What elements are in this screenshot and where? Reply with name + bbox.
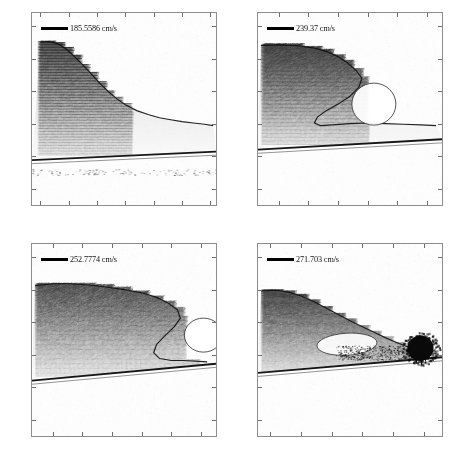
figure-container: 151050-5-10-100-95-90-85-80-75-70185.558… [0,0,452,463]
legend-label-0: 185.5586 cm/s [70,24,117,33]
xtick-mark-2-0 [53,432,54,436]
xtick-mark-top-1-4 [397,13,398,17]
velocity-field-canvas-3 [258,244,442,436]
xtick-mark-top-3-4 [393,244,394,248]
ytick-mark-right-0-1 [212,59,216,60]
ytick-mark-right-1-5 [438,189,442,190]
xtick-mark-top-0-1 [69,13,70,17]
xtick-mark-2-5 [201,432,202,436]
plot-axes-1: 151050-5-10-55-50-45-40-35-30239.37 cm/s [257,12,443,206]
xtick-mark-0-1 [69,201,70,205]
xtick-mark-1-2 [338,201,339,205]
ytick-mark-right-1-0 [438,26,442,27]
ytick-mark-0-2 [32,91,36,92]
ytick-mark-right-2-2 [212,322,216,323]
xtick-mark-3-3 [362,432,363,436]
xtick-mark-top-2-0 [53,244,54,248]
ytick-mark-2-5 [32,420,36,421]
xtick-mark-top-1-5 [427,13,428,17]
ytick-mark-right-0-5 [212,189,216,190]
ytick-mark-right-3-0 [438,257,442,258]
xtick-mark-top-3-2 [332,244,333,248]
ytick-mark-right-3-4 [438,387,442,388]
xtick-mark-2-1 [82,432,83,436]
ytick-mark-right-0-3 [212,124,216,125]
ytick-mark-right-1-3 [438,124,442,125]
xtick-mark-0-5 [182,201,183,205]
subplot-panel-0: 151050-5-10-100-95-90-85-80-75-70185.558… [0,0,226,232]
xtick-mark-3-1 [301,432,302,436]
xtick-mark-top-3-3 [362,244,363,248]
xtick-mark-3-2 [332,432,333,436]
ytick-mark-right-3-1 [438,290,442,291]
ytick-mark-1-2 [258,91,262,92]
xtick-mark-top-1-2 [338,13,339,17]
xtick-mark-top-2-3 [142,244,143,248]
xtick-mark-0-4 [154,201,155,205]
xtick-mark-top-2-5 [201,244,202,248]
ytick-mark-right-1-2 [438,91,442,92]
ytick-mark-right-3-5 [438,420,442,421]
xtick-mark-top-1-1 [308,13,309,17]
xtick-mark-top-3-1 [301,244,302,248]
ytick-mark-3-2 [258,322,262,323]
ytick-mark-right-2-5 [212,420,216,421]
ytick-mark-right-2-1 [212,290,216,291]
ytick-mark-2-0 [32,257,36,258]
velocity-field-canvas-2 [32,244,216,436]
xtick-mark-2-4 [171,432,172,436]
xtick-mark-0-2 [97,201,98,205]
xtick-mark-top-0-3 [125,13,126,17]
xtick-mark-3-0 [270,432,271,436]
legend-1: 239.37 cm/s [267,24,335,33]
xtick-mark-1-5 [427,201,428,205]
xtick-mark-top-3-5 [424,244,425,248]
legend-scale-bar-3 [267,258,294,260]
xtick-mark-top-3-0 [270,244,271,248]
xtick-mark-top-0-5 [182,13,183,17]
ytick-mark-2-3 [32,355,36,356]
ytick-mark-right-2-0 [212,257,216,258]
xtick-mark-0-3 [125,201,126,205]
legend-scale-bar-1 [267,27,294,29]
ytick-mark-0-5 [32,189,36,190]
xtick-mark-1-1 [308,201,309,205]
ytick-mark-1-4 [258,156,262,157]
ytick-mark-0-1 [32,59,36,60]
plot-axes-0: 151050-5-10-100-95-90-85-80-75-70185.558… [31,12,217,206]
ytick-mark-right-2-3 [212,355,216,356]
legend-2: 252.7774 cm/s [41,255,117,264]
xtick-mark-0-6 [210,201,211,205]
ytick-mark-1-5 [258,189,262,190]
ytick-mark-right-2-4 [212,387,216,388]
ytick-mark-3-0 [258,257,262,258]
ytick-mark-right-1-1 [438,59,442,60]
legend-label-1: 239.37 cm/s [296,24,335,33]
ytick-mark-0-0 [32,26,36,27]
ytick-mark-0-3 [32,124,36,125]
xtick-mark-top-1-3 [368,13,369,17]
ytick-mark-3-4 [258,387,262,388]
ytick-mark-right-1-4 [438,156,442,157]
xtick-mark-3-4 [393,432,394,436]
xtick-mark-2-3 [142,432,143,436]
ytick-mark-1-0 [258,26,262,27]
velocity-field-canvas-1 [258,13,442,205]
velocity-field-canvas-0 [32,13,216,205]
ytick-mark-right-3-3 [438,355,442,356]
ytick-mark-right-3-2 [438,322,442,323]
ytick-mark-right-0-0 [212,26,216,27]
xtick-mark-top-0-2 [97,13,98,17]
xtick-mark-0-0 [40,201,41,205]
plot-axes-2: 151050-5-10-55-50-45-40-35-30252.7774 cm… [31,243,217,437]
ytick-mark-3-5 [258,420,262,421]
ytick-mark-right-0-2 [212,91,216,92]
subplot-panel-3: 151050-5-10-35-30-25-20-15-10271.703 cm/… [226,231,452,463]
ytick-mark-right-0-4 [212,156,216,157]
xtick-mark-top-0-0 [40,13,41,17]
legend-0: 185.5586 cm/s [41,24,117,33]
legend-scale-bar-0 [41,27,68,29]
ytick-mark-1-3 [258,124,262,125]
subplot-panel-2: 151050-5-10-55-50-45-40-35-30252.7774 cm… [0,231,226,463]
legend-label-3: 271.703 cm/s [296,255,339,264]
